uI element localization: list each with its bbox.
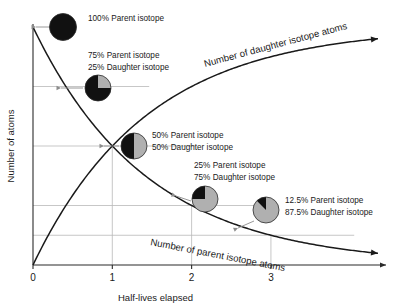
chart-canvas: 100% Parent isotope75% Parent isotope25%… [0, 0, 396, 308]
isotope-pie-p3 [192, 186, 218, 212]
annotation-line: 100% Parent isotope [88, 14, 164, 23]
annotation-leader-arrowhead [100, 144, 105, 148]
isotope-pie-p4 [253, 197, 279, 223]
annotation-line: 87.5% Daughter isotope [285, 208, 373, 217]
annotation-text-p4: 12.5% Parent isotope87.5% Daughter isoto… [285, 196, 373, 217]
axis-tick-labels: 0123 [30, 272, 274, 283]
isotope-pie-charts [50, 14, 280, 224]
annotation-line: 50% Daughter isotope [152, 143, 233, 152]
daughter-curve-label: Number of daughter isotope atoms [203, 20, 349, 69]
pie-wedge-parent [50, 14, 77, 41]
annotation-line: 25% Daughter isotope [88, 63, 169, 72]
x-axis-title: Half-lives elapsed [118, 292, 193, 303]
parent-curve-arrowhead [371, 250, 379, 257]
parent-curve-label: Number of parent isotope atoms [150, 236, 287, 273]
annotation-leader-arrowhead [233, 226, 239, 232]
x-axis-arrowhead [380, 262, 386, 267]
annotation-line: 12.5% Parent isotope [285, 196, 364, 205]
annotation-leader-line [238, 221, 254, 228]
x-tick-label: 1 [110, 272, 116, 283]
annotation-line: 50% Parent isotope [152, 131, 224, 140]
annotation-text-p3: 25% Parent isotope75% Daughter isotope [194, 161, 275, 182]
x-tick-label: 2 [189, 272, 195, 283]
x-tick-label: 0 [30, 272, 36, 283]
annotation-line: 75% Parent isotope [88, 51, 160, 60]
daughter-curve-arrowhead [371, 36, 379, 43]
isotope-pie-p2 [121, 133, 147, 159]
isotope-pie-p1 [85, 75, 111, 101]
pie-wedge-parent [121, 133, 134, 159]
daughter-isotope-curve [33, 39, 378, 265]
annotation-text-p1: 75% Parent isotope25% Daughter isotope [88, 51, 169, 72]
annotation-text-p0: 100% Parent isotope [88, 14, 164, 23]
isotope-pie-p0 [50, 14, 77, 41]
annotation-line: 75% Daughter isotope [194, 173, 275, 182]
x-tick-label: 3 [268, 272, 274, 283]
y-axis-title: Number of atoms [5, 109, 16, 182]
annotation-line: 25% Parent isotope [194, 161, 266, 170]
decay-curve-figure: 100% Parent isotope75% Parent isotope25%… [0, 0, 396, 308]
annotation-text-p2: 50% Parent isotope50% Daughter isotope [152, 131, 233, 152]
